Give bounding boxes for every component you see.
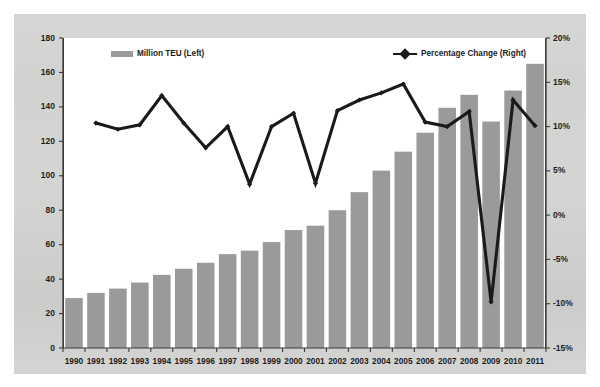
left-tick-label-60: 60	[25, 240, 55, 249]
left-tick-label-80: 80	[25, 206, 55, 215]
bar-1990	[65, 298, 83, 348]
bar-2007	[438, 108, 456, 348]
right-tick-label--10: -10%	[553, 299, 587, 308]
left-tick-label-20: 20	[25, 309, 55, 318]
bar-2002	[329, 210, 347, 348]
bar-2003	[351, 192, 369, 348]
bar-2000	[285, 230, 303, 348]
bar-1999	[263, 242, 281, 348]
bar-1994	[153, 275, 171, 348]
bar-2001	[307, 226, 325, 348]
left-tick-label-180: 180	[25, 34, 55, 43]
left-tick-label-100: 100	[25, 171, 55, 180]
left-tick-label-0: 0	[25, 344, 55, 353]
chart-canvas	[0, 0, 600, 387]
bar-1992	[109, 289, 127, 348]
right-tick-label--15: -15%	[553, 344, 587, 353]
bar-2006	[416, 133, 434, 348]
right-tick-label-10: 10%	[553, 122, 587, 131]
bar-series	[65, 64, 544, 348]
left-tick-label-120: 120	[25, 137, 55, 146]
bar-1997	[219, 254, 237, 348]
bar-1998	[241, 251, 259, 348]
bar-2004	[373, 171, 391, 348]
bar-2008	[460, 95, 478, 348]
left-tick-label-140: 140	[25, 102, 55, 111]
right-tick-label-0: 0%	[553, 211, 587, 220]
chart-figure: Million TEU (Left) Percentage Change (Ri…	[0, 0, 600, 387]
bar-1995	[175, 269, 193, 348]
left-tick-label-40: 40	[25, 275, 55, 284]
bar-1991	[87, 293, 105, 348]
bar-2005	[395, 152, 413, 348]
right-tick-label-15: 15%	[553, 78, 587, 87]
right-tick-label-5: 5%	[553, 166, 587, 175]
bar-1993	[131, 283, 149, 348]
right-tick-label--5: -5%	[553, 255, 587, 264]
bar-2011	[526, 64, 544, 348]
right-tick-label-20: 20%	[553, 34, 587, 43]
bar-1996	[197, 263, 215, 348]
left-tick-label-160: 160	[25, 68, 55, 77]
x-tick-label-2011: 2011	[520, 357, 550, 365]
bar-2010	[504, 91, 522, 348]
